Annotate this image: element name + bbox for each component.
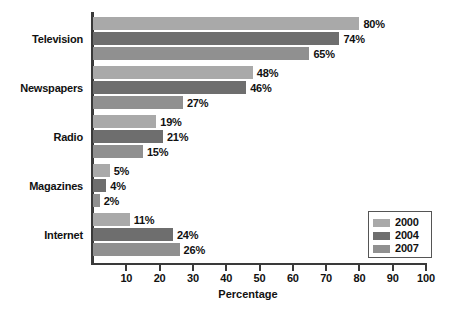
bar-value-label: 65% [313, 48, 334, 60]
x-axis-tick-label: 100 [409, 272, 443, 284]
category-label-magazines: Magazines [0, 180, 83, 192]
bar-value-label: 19% [160, 116, 181, 128]
x-axis-tick [225, 265, 227, 271]
bar-chart: 102030405060708090100 TelevisionNewspape… [0, 0, 460, 316]
category-label-television: Television [0, 33, 83, 45]
bar-internet-2004 [93, 228, 173, 241]
bar-radio-2007 [93, 145, 143, 158]
x-axis-tick [392, 265, 394, 271]
category-label-radio: Radio [0, 131, 83, 143]
bar-value-label: 2% [104, 195, 120, 207]
x-axis-tick [325, 265, 327, 271]
bar-value-label: 5% [114, 165, 130, 177]
x-axis-tick-label: 20 [143, 272, 177, 284]
bar-internet-2000 [93, 213, 130, 226]
chart-legend: 200020042007 [368, 211, 432, 258]
x-axis-tick [358, 265, 360, 271]
x-axis-tick-label: 90 [376, 272, 410, 284]
bar-value-label: 4% [110, 180, 126, 192]
x-axis-tick-label: 70 [309, 272, 343, 284]
bar-newspapers-2004 [93, 81, 246, 94]
bar-magazines-2000 [93, 164, 110, 177]
x-axis-tick-label: 40 [209, 272, 243, 284]
x-axis-tick [259, 265, 261, 271]
x-axis-tick [125, 265, 127, 271]
legend-label: 2000 [395, 216, 419, 229]
bar-value-label: 80% [363, 18, 384, 30]
category-label-internet: Internet [0, 229, 83, 241]
bar-value-label: 27% [187, 97, 208, 109]
x-axis-tick [192, 265, 194, 271]
bar-magazines-2004 [93, 179, 106, 192]
legend-swatch-icon [373, 219, 390, 227]
category-label-newspapers: Newspapers [0, 82, 83, 94]
bar-value-label: 46% [250, 82, 271, 94]
bar-internet-2007 [93, 243, 180, 256]
bar-radio-2000 [93, 115, 156, 128]
x-axis-tick [292, 265, 294, 271]
x-axis-tick-label: 80 [342, 272, 376, 284]
legend-swatch-icon [373, 245, 390, 253]
x-axis-tick-label: 60 [276, 272, 310, 284]
bar-value-label: 26% [184, 244, 205, 256]
x-axis-tick [425, 265, 427, 271]
bar-television-2000 [93, 17, 359, 30]
bar-value-label: 11% [134, 214, 155, 226]
legend-item-2000: 2000 [373, 216, 431, 229]
bar-television-2004 [93, 32, 339, 45]
bar-value-label: 15% [147, 146, 168, 158]
legend-item-2007: 2007 [373, 242, 431, 255]
bar-newspapers-2007 [93, 96, 183, 109]
bar-television-2007 [93, 47, 309, 60]
legend-label: 2004 [395, 229, 419, 242]
bar-magazines-2007 [93, 194, 100, 207]
bar-value-label: 48% [257, 67, 278, 79]
bar-value-label: 24% [177, 229, 198, 241]
legend-label: 2007 [395, 242, 419, 255]
legend-swatch-icon [373, 232, 390, 240]
x-axis-tick [159, 265, 161, 271]
x-axis-title: Percentage [0, 288, 460, 300]
bar-radio-2004 [93, 130, 163, 143]
bar-newspapers-2000 [93, 66, 253, 79]
x-axis-tick-label: 30 [176, 272, 210, 284]
legend-item-2004: 2004 [373, 229, 431, 242]
x-axis-tick-label: 50 [243, 272, 277, 284]
bar-value-label: 21% [167, 131, 188, 143]
bar-value-label: 74% [343, 33, 364, 45]
x-axis-tick-label: 10 [109, 272, 143, 284]
